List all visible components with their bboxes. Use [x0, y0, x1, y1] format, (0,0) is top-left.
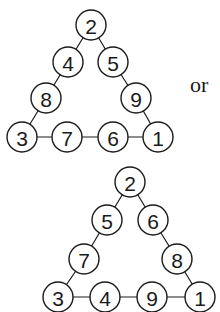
node-value: 5 — [107, 52, 119, 75]
number-node: 9 — [137, 282, 167, 312]
node-value: 6 — [107, 127, 119, 150]
or-separator-label: or — [190, 72, 208, 98]
node-value: 7 — [78, 249, 90, 272]
number-node: 4 — [90, 282, 120, 312]
node-value: 3 — [16, 127, 28, 150]
number-node: 4 — [53, 47, 83, 77]
node-value: 4 — [62, 52, 74, 75]
number-node: 9 — [121, 83, 151, 113]
node-value: 2 — [85, 15, 97, 38]
number-node: 8 — [31, 83, 61, 113]
node-value: 5 — [101, 210, 113, 233]
node-value: 9 — [130, 88, 142, 111]
number-node: 7 — [52, 122, 82, 152]
node-value: 7 — [61, 127, 73, 150]
node-value: 8 — [40, 88, 52, 111]
number-node: 1 — [143, 122, 173, 152]
number-node: 8 — [162, 244, 192, 274]
number-node: 6 — [98, 122, 128, 152]
node-value: 8 — [171, 249, 183, 272]
node-value: 3 — [52, 287, 64, 310]
triangle-1: 245893761 — [7, 10, 173, 152]
number-node: 3 — [7, 122, 37, 152]
number-node: 7 — [69, 244, 99, 274]
magic-triangle-diagram: 245893761256783491 — [0, 0, 220, 312]
number-node: 3 — [43, 282, 73, 312]
number-node: 2 — [76, 10, 106, 40]
node-value: 2 — [124, 172, 136, 195]
node-value: 9 — [146, 287, 158, 310]
node-value: 1 — [194, 287, 206, 310]
node-value: 1 — [152, 127, 164, 150]
number-node: 5 — [98, 47, 128, 77]
node-value: 4 — [99, 287, 111, 310]
number-node: 5 — [92, 205, 122, 235]
node-value: 6 — [147, 210, 159, 233]
number-node: 2 — [115, 167, 145, 197]
triangle-2: 256783491 — [43, 167, 215, 312]
number-node: 6 — [138, 205, 168, 235]
number-node: 1 — [185, 282, 215, 312]
